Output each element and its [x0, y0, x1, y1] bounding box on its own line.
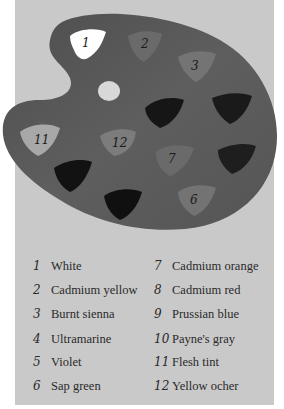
- legend-item-white: 1 White: [33, 256, 82, 276]
- legend-item-yellow-ocher: 12 Yellow ocher: [154, 376, 238, 396]
- legend-item-violet: 5 Violet: [33, 352, 82, 372]
- legend-label: Flesh tint: [172, 355, 219, 370]
- legend-item-cadmium-yellow: 2 Cadmium yellow: [33, 280, 137, 300]
- palette-svg: 1 2 3 7 6 11 12: [0, 0, 284, 232]
- legend-item-sap-green: 6 Sap green: [33, 376, 101, 396]
- legend-number: 2: [33, 283, 51, 297]
- legend-item-cadmium-red: 8 Cadmium red: [154, 280, 240, 300]
- legend-label: Yellow ocher: [172, 379, 238, 394]
- swatch-number-3: 3: [191, 59, 199, 73]
- legend-item-cadmium-orange: 7 Cadmium orange: [154, 256, 258, 276]
- legend-number: 1: [33, 259, 51, 273]
- legend-number: 5: [33, 355, 51, 369]
- legend-label: Cadmium red: [172, 283, 240, 298]
- legend-number: 12: [154, 379, 172, 393]
- legend-number: 11: [154, 355, 172, 369]
- legend-item-ultramarine: 4 Ultramarine: [33, 329, 111, 349]
- legend-label: Violet: [51, 355, 82, 370]
- legend-number: 3: [33, 307, 51, 321]
- swatch-number-1: 1: [82, 36, 90, 50]
- legend-label: Ultramarine: [51, 332, 111, 347]
- legend-label: Prussian blue: [172, 307, 239, 322]
- thumb-hole: [98, 81, 120, 101]
- legend-number: 10: [154, 332, 172, 346]
- paint-palette-illustration: 1 2 3 7 6 11 12: [0, 0, 284, 232]
- legend-label: Sap green: [51, 379, 101, 394]
- swatch-number-7: 7: [168, 152, 176, 166]
- legend-label: White: [51, 259, 82, 274]
- swatch-number-2: 2: [140, 37, 149, 51]
- legend-item-paynes-gray: 10 Payne's gray: [154, 329, 235, 349]
- legend-label: Payne's gray: [172, 332, 235, 347]
- swatch-number-12: 12: [112, 136, 127, 150]
- legend-number: 7: [154, 259, 172, 273]
- swatch-number-6: 6: [190, 193, 198, 207]
- legend-item-prussian-blue: 9 Prussian blue: [154, 304, 239, 324]
- legend-item-flesh-tint: 11 Flesh tint: [154, 352, 219, 372]
- legend-number: 4: [33, 332, 51, 346]
- legend-label: Cadmium orange: [172, 259, 258, 274]
- legend-number: 9: [154, 307, 172, 321]
- legend-item-burnt-sienna: 3 Burnt sienna: [33, 304, 115, 324]
- legend-number: 8: [154, 283, 172, 297]
- legend-label: Burnt sienna: [51, 307, 115, 322]
- legend-number: 6: [33, 379, 51, 393]
- legend-label: Cadmium yellow: [51, 283, 137, 298]
- swatch-number-11: 11: [34, 133, 49, 147]
